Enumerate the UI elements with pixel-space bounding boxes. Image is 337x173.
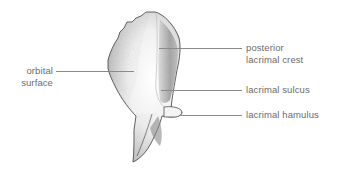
label-lacrimal-hamulus: lacrimal hamulus — [246, 109, 319, 121]
label-orbital-surface-line1: orbital — [19, 65, 53, 77]
label-posterior-lacrimal-crest-line1: posterior — [246, 42, 303, 54]
label-posterior-lacrimal-crest-line2: lacrimal crest — [246, 54, 303, 66]
leader-line-orbital-surface — [56, 71, 134, 72]
leader-line-lacrimal-hamulus — [180, 115, 242, 116]
label-posterior-lacrimal-crest: posterior lacrimal crest — [246, 42, 303, 66]
label-orbital-surface-line2: surface — [19, 77, 53, 89]
leader-line-posterior-lacrimal-crest — [159, 48, 242, 49]
leader-line-lacrimal-sulcus — [161, 90, 242, 91]
label-lacrimal-hamulus-line1: lacrimal hamulus — [246, 109, 319, 121]
label-lacrimal-sulcus-line1: lacrimal sulcus — [246, 84, 310, 96]
label-orbital-surface: orbital surface — [19, 65, 53, 89]
label-lacrimal-sulcus: lacrimal sulcus — [246, 84, 310, 96]
